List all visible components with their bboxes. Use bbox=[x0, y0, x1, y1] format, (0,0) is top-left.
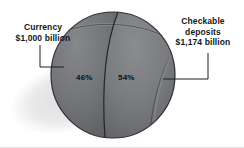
callout-label-checkable-deposits: Checkable deposits $1,174 billion bbox=[168, 16, 238, 48]
pie-data-label-checkable-deposits: 54% bbox=[118, 73, 135, 82]
pie-chart-figure: Currency $1,000 billion Checkable deposi… bbox=[0, 0, 244, 148]
callout-currency-line1: Currency bbox=[10, 22, 76, 33]
callout-deposits-line1: Checkable bbox=[168, 16, 238, 27]
callout-currency-line2: $1,000 billion bbox=[10, 33, 76, 44]
callout-deposits-line2: deposits bbox=[168, 27, 238, 38]
callout-deposits-line3: $1,174 billion bbox=[168, 37, 238, 48]
callout-label-currency: Currency $1,000 billion bbox=[10, 22, 76, 43]
pie-slice-checkable-deposits bbox=[104, 12, 178, 138]
pie-data-label-currency: 46% bbox=[76, 73, 93, 82]
